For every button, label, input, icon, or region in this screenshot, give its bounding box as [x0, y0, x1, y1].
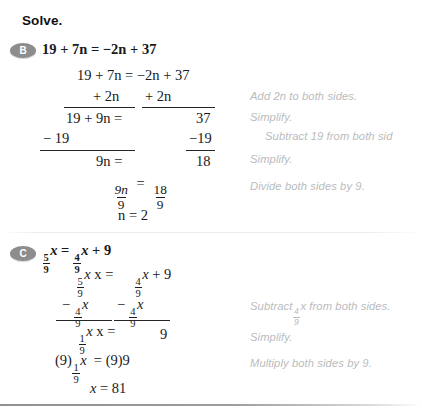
fraction-4-over-9: 4 9: [293, 307, 300, 327]
step-c-simplified-right: 9: [160, 326, 167, 343]
section-divider: [0, 232, 422, 233]
note-c-3: Multiply both sides by 9.: [250, 357, 372, 369]
variable-x: x: [142, 266, 148, 282]
step-c-answer: x = 81: [90, 380, 126, 397]
step-b-simplified-right: 37: [196, 110, 211, 127]
variable-x: x: [50, 242, 57, 258]
work-rule-b-1-left: [64, 107, 135, 108]
step-b-add-left: + 2n: [93, 88, 119, 105]
variable-x: x: [84, 266, 90, 282]
equals-sign: x =: [96, 323, 115, 339]
worksheet-page: Solve. B 19 + 7n = −2n + 37 19 + 7n = −2…: [0, 0, 422, 414]
section-badge-c: C: [10, 246, 36, 261]
step-c-1-left: 5 9 x x =: [76, 266, 113, 300]
step-b-answer: n = 2: [118, 207, 148, 224]
step-b-1: 19 + 7n = −2n + 37: [77, 67, 189, 84]
variable-x: x: [90, 380, 96, 396]
fraction-5-over-9: 5 9: [43, 252, 50, 276]
note-c-1: Subtract 4 9 x from both sides.: [250, 300, 391, 327]
note-c-2: Simplify.: [250, 331, 292, 343]
fraction-numerator: 1: [79, 333, 86, 344]
work-rule-c-1-left: [56, 320, 112, 321]
page-title: Solve.: [22, 13, 62, 28]
step-b-simplified-left: 19 + 9n =: [66, 110, 122, 127]
variable-x: x: [81, 242, 88, 258]
variable-x: x: [137, 296, 143, 312]
work-rule-b-2-right: [186, 150, 215, 151]
fraction-denominator: 9: [156, 197, 165, 212]
problem-statement-b: 19 + 7n = −2n + 37: [42, 41, 156, 58]
work-rule-c-1-right: [114, 320, 170, 321]
fraction-1-over-9: 1 9: [72, 362, 79, 386]
plus-nine: + 9: [92, 242, 111, 258]
step-b-add-right: + 2n: [145, 88, 171, 105]
note-b-1: Add 2n to both sides.: [250, 90, 357, 102]
page-bottom-rule: [0, 404, 422, 406]
variable-x: x: [82, 296, 88, 312]
step-b-result-right: 18: [196, 153, 211, 170]
note-c-1-lead: Subtract: [250, 300, 292, 312]
minus-sign: −: [62, 296, 70, 312]
fraction-numerator: 18: [153, 183, 168, 197]
equals-sign: =: [133, 175, 148, 191]
step-b-result-left: 9n =: [96, 153, 122, 170]
note-c-1-tail: x from both sides.: [300, 300, 390, 312]
note-b-5: Divide both sides by 9.: [250, 180, 365, 192]
answer-value: = 81: [100, 380, 126, 396]
work-rule-b-2-left: [40, 150, 135, 151]
equals-and-product: = (9)9: [90, 352, 130, 368]
variable-x: x: [80, 352, 86, 368]
work-rule-b-1-right: [142, 107, 215, 108]
step-b-subtract-right: −19: [189, 130, 212, 147]
step-b-subtract-left: − 19: [43, 130, 69, 147]
equals-sign: x =: [94, 266, 113, 282]
step-c-subtract-right: − 4 9 x: [117, 296, 143, 330]
note-b-3: Subtract 19 from both sid: [265, 130, 393, 142]
fraction-4-over-9: 4 9: [129, 306, 136, 330]
fraction-numerator: 1: [72, 362, 79, 373]
multiplier-left: (9): [55, 352, 72, 368]
fraction-numerator: 9n: [115, 182, 128, 197]
plus-nine: + 9: [152, 266, 171, 282]
equals-sign: =: [61, 242, 69, 258]
note-b-2: Simplify.: [250, 111, 292, 123]
step-c-1-right: 4 9 x + 9: [134, 266, 171, 300]
note-b-4: Simplify.: [250, 153, 292, 165]
section-badge-b: B: [10, 43, 36, 58]
fraction-18-over-9: 18 9: [153, 183, 168, 213]
minus-sign: −: [117, 296, 125, 312]
variable-x: x: [86, 323, 92, 339]
